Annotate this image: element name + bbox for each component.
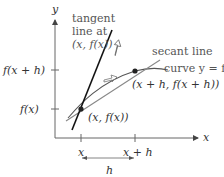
fx-tick-label: f(x) — [19, 103, 39, 116]
point-a-label: (x, f(x)) — [88, 111, 129, 124]
xh-tick-label: x + h — [123, 146, 153, 159]
tangent-label-1: tangent — [72, 12, 116, 25]
secant-label: secant line — [152, 45, 213, 58]
x-tick-label: x — [78, 146, 85, 159]
derivative-diagram: y x x x + h f(x + h) f(x) h tangent line… — [0, 0, 224, 177]
tangent-label-2: line at — [72, 25, 108, 38]
y-axis-label: y — [51, 3, 59, 16]
tangent-direction-arrow — [113, 40, 122, 56]
tangent-label-3: (x, f(x)) — [72, 38, 113, 51]
x-axis-label: x — [203, 131, 210, 144]
curve-label: curve y = f — [164, 62, 224, 75]
point-b-label: (x + h, f(x + h)) — [132, 78, 219, 91]
fxh-tick-label: f(x + h) — [2, 64, 45, 77]
point-a — [78, 106, 83, 111]
point-b — [132, 68, 137, 73]
h-label: h — [106, 164, 113, 177]
